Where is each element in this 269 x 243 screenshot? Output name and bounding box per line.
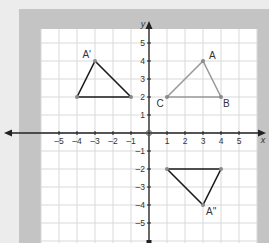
vertex-point [75,95,79,99]
vertex-label: A'' [206,206,217,217]
x-tick-label: –5 [54,136,64,146]
vertex-label: C [156,98,163,109]
y-tick-label: –4 [136,200,146,210]
vertex-label: B [223,98,230,109]
x-tick-label: 3 [201,136,206,146]
vertex-point [93,59,97,63]
x-tick-label: –2 [108,136,118,146]
vertex-point [129,95,133,99]
y-tick-label: –1 [136,146,146,156]
y-tick-label: 1 [140,110,145,120]
y-tick-label: 3 [140,74,145,84]
y-tick-label: 5 [140,38,145,48]
vertex-point [201,203,205,207]
x-tick-label: 2 [183,136,188,146]
x-axis-label: x [260,135,266,145]
y-tick-label: 2 [140,92,145,102]
vertex-point [219,167,223,171]
vertex-point [165,95,169,99]
x-tick-label: –3 [90,136,100,146]
coordinate-plane: –5–4–3–2–11234554321–1–2–3–4–5xy ABCA'A'… [0,0,269,243]
x-tick-label: –4 [72,136,82,146]
y-tick-label: 4 [140,56,145,66]
x-tick-label: 4 [219,136,224,146]
x-axis-arrow-left-icon [4,130,12,137]
vertex-point [165,167,169,171]
y-axis-arrow-up-icon [146,21,153,29]
x-tick-label: 5 [237,136,242,146]
y-tick-label: –2 [136,164,146,174]
y-axis-label: y [140,19,146,29]
vertex-point [201,59,205,63]
y-tick-label: –5 [136,218,146,228]
vertex-label: A' [82,49,91,60]
x-tick-label: –1 [126,136,136,146]
vertex-label: A [209,50,216,61]
x-tick-label: 1 [165,136,170,146]
y-tick-label: –3 [136,182,146,192]
